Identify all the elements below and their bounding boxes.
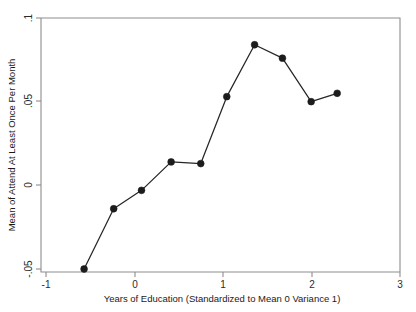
x-tick-label-1: 0	[132, 279, 138, 290]
data-point	[334, 90, 341, 97]
y-tick-label-3: -.05	[23, 260, 34, 278]
data-point	[110, 205, 117, 212]
data-point	[168, 159, 175, 166]
x-axis-title: Years of Education (Standardized to Mean…	[104, 293, 341, 304]
data-point	[81, 266, 88, 273]
data-point	[251, 41, 258, 48]
line-chart: .1 .05 0 -.05 Mean of Attend At Least On…	[0, 0, 416, 312]
data-point	[197, 160, 204, 167]
x-tick-label-2: 1	[220, 279, 226, 290]
x-tick-label-3: 2	[309, 279, 315, 290]
y-axis-title: Mean of Attend At Least Once Per Month	[6, 59, 17, 232]
y-tick-label-0: .1	[23, 13, 34, 22]
x-tick-label-0: -1	[42, 279, 51, 290]
data-point	[279, 55, 286, 62]
y-tick-label-2: 0	[23, 182, 34, 188]
data-point	[138, 187, 145, 194]
data-point	[223, 93, 230, 100]
x-tick-label-4: 3	[397, 279, 403, 290]
chart-container: .1 .05 0 -.05 Mean of Attend At Least On…	[0, 0, 416, 312]
y-tick-label-1: .05	[23, 94, 34, 108]
data-point	[308, 98, 315, 105]
chart-background	[0, 0, 416, 312]
